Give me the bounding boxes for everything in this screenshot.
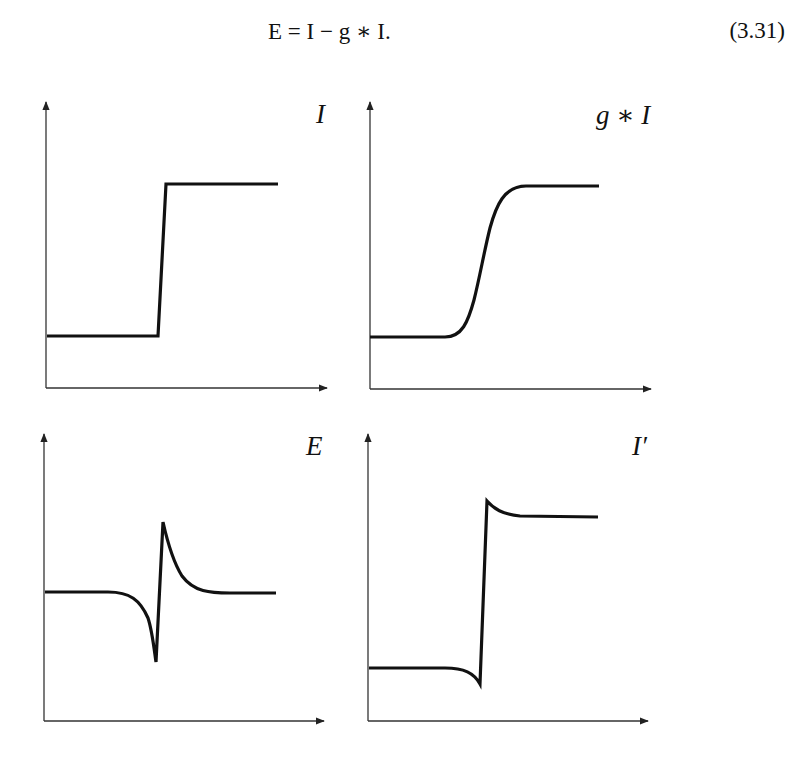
panel-label: E bbox=[305, 431, 323, 461]
figure: I g ∗ I E I′ bbox=[0, 0, 787, 759]
panel-label: I′ bbox=[631, 431, 648, 461]
panel-label: I bbox=[315, 99, 327, 129]
curve-E bbox=[45, 522, 276, 662]
panel-E: E bbox=[44, 431, 324, 721]
panel-Iprime: I′ bbox=[368, 431, 648, 721]
curve-Iprime bbox=[369, 501, 598, 684]
panel-gI: g ∗ I bbox=[370, 100, 652, 389]
panel-label: g ∗ I bbox=[596, 100, 652, 130]
curve-gI bbox=[370, 186, 599, 337]
curve-I bbox=[47, 184, 278, 336]
panel-I: I bbox=[46, 99, 327, 388]
